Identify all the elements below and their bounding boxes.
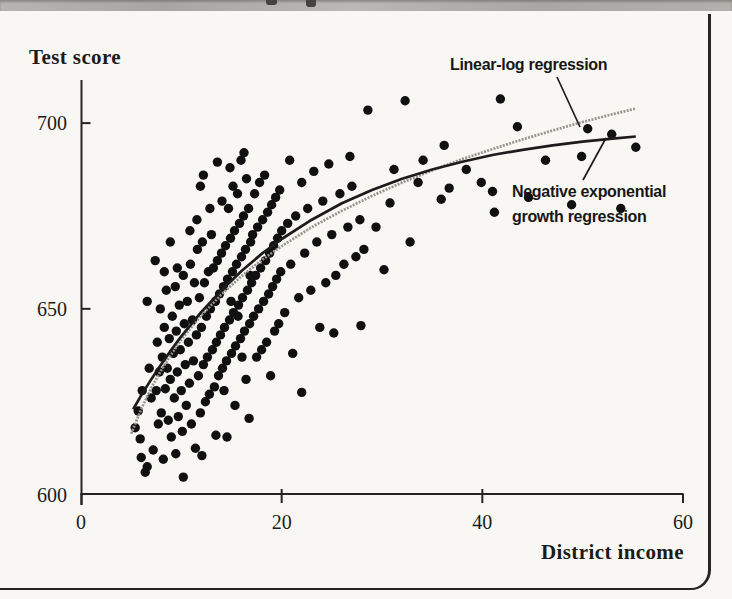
scatter-point	[359, 245, 368, 254]
scatter-point	[339, 260, 348, 269]
scatter-point	[149, 445, 158, 454]
scatter-point	[288, 349, 297, 358]
scatter-point	[250, 189, 259, 198]
scatter-point	[513, 122, 522, 131]
scatter-point	[166, 237, 175, 246]
scatter-point	[351, 252, 360, 261]
scatter-point	[210, 382, 219, 391]
scatter-point	[161, 384, 170, 393]
scatter-point	[437, 195, 446, 204]
scatter-point	[160, 267, 169, 276]
scatter-point	[228, 182, 237, 191]
scatter-point	[177, 386, 186, 395]
scatter-point	[277, 226, 286, 235]
scatter-point	[266, 371, 275, 380]
scatter-point	[186, 260, 195, 269]
scatter-point	[207, 230, 216, 239]
scatter-point	[286, 260, 295, 269]
scatter-point	[196, 408, 205, 417]
scatter-point	[244, 414, 253, 423]
scatter-point	[197, 323, 206, 332]
scatter-point	[496, 94, 505, 103]
scatter-point	[583, 124, 592, 133]
scatter-point	[167, 432, 176, 441]
scatter-point	[225, 163, 234, 172]
scatter-point	[260, 170, 269, 179]
scatter-point	[172, 326, 181, 335]
scatter-point	[400, 96, 409, 105]
scatter-point	[197, 451, 206, 460]
scatter-point	[162, 286, 171, 295]
scatter-point	[164, 416, 173, 425]
scatter-point	[175, 300, 184, 309]
scatter-point	[217, 196, 226, 205]
scatter-point	[297, 178, 306, 187]
scatter-point	[306, 286, 315, 295]
scatter-point	[153, 338, 162, 347]
scatter-point	[157, 408, 166, 417]
scatter-point	[224, 204, 233, 213]
scatter-point	[274, 319, 283, 328]
scatter-point	[343, 222, 352, 231]
scatter-point	[291, 211, 300, 220]
x-tick-label: 40	[472, 511, 492, 533]
scatter-point	[294, 293, 303, 302]
scatter-point	[196, 182, 205, 191]
scatter-point	[145, 364, 154, 373]
y-axis-title: Test score	[29, 45, 121, 70]
negexp-leader-line	[583, 138, 606, 180]
scatter-point	[445, 183, 454, 192]
scatter-point	[371, 222, 380, 231]
x-tick-label: 0	[76, 511, 86, 533]
scatter-point	[379, 265, 388, 274]
scatter-point	[241, 375, 250, 384]
scatter-point	[136, 434, 145, 443]
scatter-point	[239, 148, 248, 157]
linear-log-annotation: Linear-log regression	[450, 52, 607, 77]
scatter-point	[385, 198, 394, 207]
scatter-point	[191, 444, 200, 453]
scatter-point	[335, 189, 344, 198]
linear-log-leader-line	[557, 77, 580, 127]
scatter-point	[309, 167, 318, 176]
x-axis-title: District income	[514, 540, 684, 565]
y-tick-label: 600	[20, 484, 67, 506]
scatter-point	[195, 293, 204, 302]
scatter-point	[297, 388, 306, 397]
negexp-annotation-line1: Negative exponential	[512, 179, 666, 204]
scatter-point	[174, 412, 183, 421]
scatter-point	[194, 371, 203, 380]
scatter-point	[331, 271, 340, 280]
y-tick-label: 700	[20, 112, 67, 134]
scatter-point	[176, 345, 185, 354]
scatter-point	[490, 208, 499, 217]
scatter-point	[143, 462, 152, 471]
scatter-point	[327, 230, 336, 239]
scatter-point	[183, 297, 192, 306]
scatter-point	[182, 401, 191, 410]
scatter-point	[242, 174, 251, 183]
scatter-point	[276, 267, 285, 276]
scatter-point	[219, 386, 228, 395]
scatter-point	[356, 321, 365, 330]
scatter-point	[198, 237, 207, 246]
scatter-point	[285, 156, 294, 165]
scatter-point	[205, 204, 214, 213]
scatter-point	[222, 432, 231, 441]
scatter-point	[405, 237, 414, 246]
x-tick-label: 20	[272, 511, 292, 533]
scatter-point	[541, 156, 550, 165]
scatter-point	[324, 159, 333, 168]
scatter-point	[477, 178, 486, 187]
scatter-point	[631, 143, 640, 152]
scatter-point	[171, 449, 180, 458]
scatter-point	[345, 152, 354, 161]
scatter-point	[190, 278, 199, 287]
scatter-point	[178, 427, 187, 436]
scatter-point	[159, 455, 168, 464]
scatter-point	[300, 248, 309, 257]
scatter-point	[275, 185, 284, 194]
scatter-point	[199, 170, 208, 179]
scatter-point	[179, 472, 188, 481]
scatter-point	[262, 338, 271, 347]
